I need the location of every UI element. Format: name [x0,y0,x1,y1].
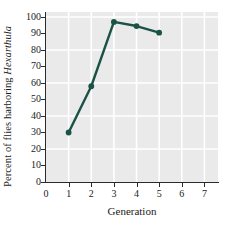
y-tick-mark [41,99,45,100]
y-tick-mark [41,66,45,67]
x-tick-label: 1 [66,189,71,199]
y-tick-label: 40 [31,111,41,121]
x-gridlines [69,12,205,182]
y-tick-mark [41,165,45,166]
data-point [134,23,140,29]
y-tick-label: 10 [31,160,41,170]
x-tick-mark [114,183,115,187]
data-point [156,30,162,36]
y-tick-label: 100 [26,12,41,22]
x-tick-mark [69,183,70,187]
y-axis-line [45,12,46,183]
y-tick-mark [41,17,45,18]
x-tick-label: 4 [134,189,139,199]
x-tick-mark [91,183,92,187]
y-tick-mark [41,182,45,183]
x-tick-mark [204,183,205,187]
x-tick-label: 5 [157,189,162,199]
x-tick-mark [182,183,183,187]
x-axis-line [45,182,219,183]
y-tick-mark [41,83,45,84]
x-tick-label: 3 [111,189,116,199]
y-gridlines [46,17,218,149]
y-tick-mark [41,33,45,34]
x-axis-title: Generation [46,206,218,217]
x-tick-label: 2 [89,189,94,199]
y-tick-mark [41,116,45,117]
x-tick-label: 7 [202,189,207,199]
x-tick-label: 0 [44,189,49,199]
data-point [66,130,72,136]
y-tick-label: 70 [31,61,41,71]
y-tick-label: 90 [31,28,41,38]
x-tick-mark [159,183,160,187]
data-point [88,83,94,89]
y-tick-label: 50 [31,94,41,104]
y-tick-mark [41,132,45,133]
y-axis-tick-labels: 0102030405060708090100 [18,0,43,200]
y-tick-mark [41,149,45,150]
y-tick-label: 60 [31,78,41,88]
x-tick-label: 6 [179,189,184,199]
y-axis-title-container: Percent of flies harboring Hexarthula [0,0,18,190]
plot-area [46,12,218,182]
x-tick-mark [137,183,138,187]
y-axis-title-species: Hexarthula [2,26,13,75]
y-axis-title: Percent of flies harboring Hexarthula [2,26,13,187]
data-point [111,19,117,25]
y-axis-title-prefix: Percent of flies harboring [2,75,13,187]
y-tick-label: 80 [31,45,41,55]
y-tick-mark [41,50,45,51]
chart-figure: Percent of flies harboring Hexarthula 01… [0,0,225,227]
y-tick-label: 20 [31,144,41,154]
y-tick-label: 30 [31,127,41,137]
plot-svg [46,12,218,182]
